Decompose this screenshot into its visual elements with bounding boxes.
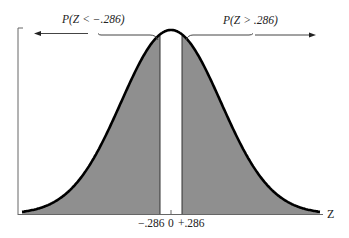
left-arrowhead-icon — [34, 31, 41, 36]
bell-curve — [22, 30, 320, 212]
left-brace — [98, 34, 158, 41]
tick-label-zero: 0 — [168, 218, 174, 230]
left-tail-label: P(Z < −.286) — [62, 14, 124, 26]
axis-label-z: Z — [327, 208, 334, 220]
right-arrowhead-icon — [309, 33, 316, 38]
tick-label-neg: −.286 — [138, 218, 165, 230]
right-tail-label: P(Z > .286) — [223, 15, 278, 27]
normal-curve-figure — [0, 0, 349, 238]
right-brace — [186, 34, 253, 41]
tick-label-pos: +.286 — [178, 218, 205, 230]
